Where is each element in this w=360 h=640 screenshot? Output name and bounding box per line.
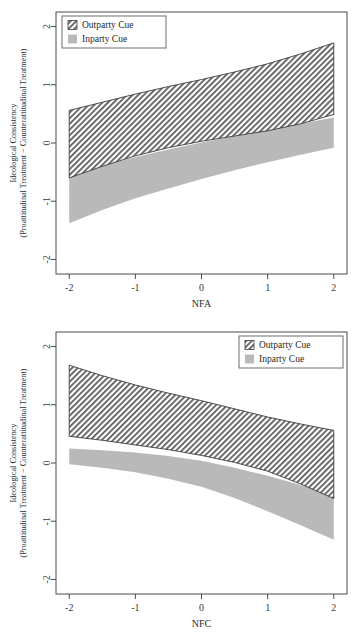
y-axis-title-line2: (Proattitudinal Treatment − Counterattit…: [19, 48, 28, 237]
x-axis-title: NFA: [192, 298, 212, 309]
y-tick-label: 1: [41, 82, 52, 87]
y-tick-label: -2: [41, 255, 52, 263]
chart-svg-nfa: -2-1012-2-1012NFAIdeological Consistency…: [0, 0, 360, 320]
figure-container: -2-1012-2-1012NFAIdeological Consistency…: [0, 0, 360, 640]
legend-swatch-hatched: [245, 341, 254, 350]
x-tick-label: -2: [65, 602, 73, 613]
x-tick-label: 2: [331, 282, 336, 293]
y-tick-label: -1: [41, 517, 52, 525]
y-tick-label: -1: [41, 197, 52, 205]
chart-svg-nfc: -2-1012-2-1012NFCIdeological Consistency…: [0, 320, 360, 640]
legend-swatch-gray: [68, 35, 77, 44]
x-tick-label: 1: [265, 602, 270, 613]
x-tick-label: 0: [199, 602, 204, 613]
legend-label: Inparty Cue: [259, 354, 304, 364]
legend-item-inparty[interactable]: Inparty Cue: [245, 354, 304, 364]
legend-item-inparty[interactable]: Inparty Cue: [68, 34, 127, 44]
y-tick-label: 0: [41, 461, 52, 466]
legend-label: Inparty Cue: [82, 34, 127, 44]
x-tick-label: 0: [199, 282, 204, 293]
legend-label: Outparty Cue: [259, 340, 310, 350]
legend-swatch-hatched: [68, 21, 77, 30]
x-tick-label: -1: [131, 282, 139, 293]
y-tick-label: 2: [41, 344, 52, 349]
x-tick-label: -2: [65, 282, 73, 293]
x-axis-title: NFC: [192, 618, 212, 629]
y-tick-label: -2: [41, 575, 52, 583]
y-tick-label: 2: [41, 24, 52, 29]
legend-swatch-gray: [245, 355, 254, 364]
y-axis-title-line1: Ideological Consistency: [9, 423, 18, 503]
chart-panel-nfc: -2-1012-2-1012NFCIdeological Consistency…: [0, 320, 360, 640]
legend-label: Outparty Cue: [82, 20, 133, 30]
x-tick-label: 2: [331, 602, 336, 613]
x-tick-label: -1: [131, 602, 139, 613]
y-axis-title-line1: Ideological Consistency: [9, 103, 18, 183]
x-tick-label: 1: [265, 282, 270, 293]
y-tick-label: 1: [41, 402, 52, 407]
y-tick-label: 0: [41, 141, 52, 146]
y-axis-title-line2: (Proattitudinal Treatment − Counterattit…: [19, 368, 28, 557]
chart-panel-nfa: -2-1012-2-1012NFAIdeological Consistency…: [0, 0, 360, 320]
